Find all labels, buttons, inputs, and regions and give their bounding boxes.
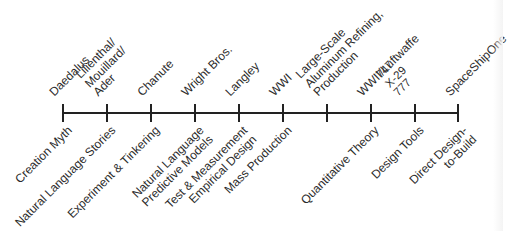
tick-2 bbox=[150, 104, 152, 122]
tick-9 bbox=[457, 104, 459, 122]
tick-7 bbox=[370, 104, 372, 122]
method-quantitative-theory: Quantitative Theory bbox=[299, 124, 382, 207]
edge-shading bbox=[493, 0, 503, 231]
tick-1 bbox=[106, 104, 108, 122]
tick-5 bbox=[282, 104, 284, 122]
event-lilienthal-mouillard-ader: Lilienthal/ Mouillard/ Ader bbox=[73, 35, 136, 98]
tick-0 bbox=[62, 104, 64, 122]
timeline-axis bbox=[63, 112, 459, 114]
event-wwi: WWI bbox=[267, 71, 294, 98]
tick-3 bbox=[194, 104, 196, 122]
event-747-x29-777: 747 X-29 777 bbox=[373, 55, 417, 99]
tick-4 bbox=[238, 104, 240, 122]
tick-8 bbox=[414, 104, 416, 122]
event-chanute: Chanute bbox=[135, 58, 176, 99]
event-langley: Langley bbox=[223, 60, 262, 99]
tick-6 bbox=[326, 104, 328, 122]
